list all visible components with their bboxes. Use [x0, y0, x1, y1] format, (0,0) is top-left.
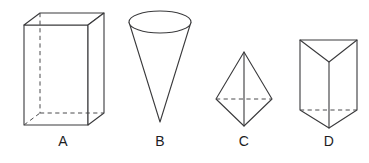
shape-label-a: A — [50, 133, 76, 149]
cone-lateral-surface — [129, 22, 191, 122]
shape-label-c: C — [231, 133, 257, 149]
geometric-solids-figure: A B C D — [0, 0, 369, 163]
prism-right-face — [88, 13, 104, 125]
shape-c-bipyramid — [216, 52, 272, 126]
shape-label-d: D — [316, 133, 342, 149]
shape-b-cone — [129, 11, 191, 122]
prism-front-face — [24, 25, 88, 125]
shape-a-rectangular-prism — [24, 13, 104, 125]
shape-label-b: B — [147, 133, 173, 149]
cone-top-ellipse — [129, 11, 191, 33]
shape-d-triangular-prism — [300, 40, 357, 128]
